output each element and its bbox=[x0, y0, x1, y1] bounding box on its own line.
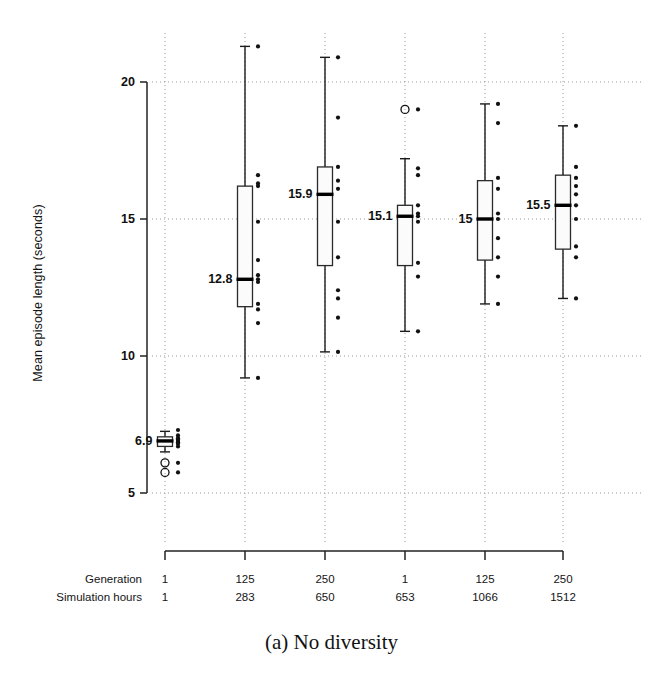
figure-caption: (a) No diversity bbox=[0, 630, 663, 655]
data-point bbox=[416, 214, 420, 218]
data-point bbox=[336, 165, 340, 169]
data-point bbox=[496, 176, 500, 180]
axis-value-simulation-hours-4: 653 bbox=[395, 591, 414, 603]
data-point bbox=[256, 307, 260, 311]
data-point bbox=[256, 44, 260, 48]
data-point bbox=[574, 165, 578, 169]
axis-row-label-generation: Generation bbox=[22, 573, 142, 585]
data-point bbox=[256, 280, 260, 284]
data-point bbox=[256, 184, 260, 188]
axis-value-simulation-hours-1: 1 bbox=[162, 591, 168, 603]
axis-value-generation-4: 1 bbox=[402, 573, 408, 585]
axis-value-simulation-hours-6: 1512 bbox=[550, 591, 576, 603]
data-point bbox=[256, 376, 260, 380]
figure-panel: Mean episode length (seconds) 51015206.9… bbox=[0, 0, 663, 685]
data-point bbox=[176, 444, 180, 448]
data-point bbox=[496, 302, 500, 306]
data-point bbox=[256, 273, 260, 277]
data-point bbox=[336, 187, 340, 191]
data-point bbox=[256, 220, 260, 224]
axis-value-simulation-hours-3: 650 bbox=[315, 591, 334, 603]
data-point bbox=[176, 428, 180, 432]
axis-value-generation-5: 125 bbox=[475, 573, 494, 585]
data-point bbox=[336, 179, 340, 183]
data-point bbox=[416, 261, 420, 265]
y-axis-tick-label-15: 15 bbox=[121, 212, 135, 226]
data-point bbox=[496, 255, 500, 259]
box-plot-group-1 bbox=[157, 428, 181, 477]
box-plot-group-5 bbox=[477, 102, 501, 306]
data-point bbox=[574, 244, 578, 248]
axis-value-generation-2: 125 bbox=[235, 573, 254, 585]
median-value-label-1: 6.9 bbox=[135, 434, 152, 448]
axis-value-simulation-hours-2: 283 bbox=[235, 591, 254, 603]
data-point bbox=[496, 274, 500, 278]
axis-row-label-simulation-hours: Simulation hours bbox=[22, 591, 142, 603]
median-value-label-5: 15 bbox=[459, 212, 473, 226]
box-rect bbox=[238, 186, 253, 307]
data-point bbox=[496, 187, 500, 191]
data-point bbox=[336, 220, 340, 224]
box-rect bbox=[398, 205, 413, 265]
box-rect bbox=[556, 175, 571, 249]
y-axis-tick-label-5: 5 bbox=[128, 486, 135, 500]
axis-value-simulation-hours-5: 1066 bbox=[472, 591, 498, 603]
data-point bbox=[574, 124, 578, 128]
box-plot-group-6 bbox=[555, 124, 579, 301]
data-point bbox=[496, 211, 500, 215]
axis-value-generation-1: 1 bbox=[162, 573, 168, 585]
data-point bbox=[574, 296, 578, 300]
data-point bbox=[256, 173, 260, 177]
data-point bbox=[176, 470, 180, 474]
median-value-label-2: 12.8 bbox=[208, 272, 232, 286]
data-point bbox=[574, 176, 578, 180]
data-point bbox=[496, 102, 500, 106]
data-point bbox=[336, 255, 340, 259]
median-value-label-4: 15.1 bbox=[368, 209, 392, 223]
data-point bbox=[256, 258, 260, 262]
data-point bbox=[336, 316, 340, 320]
axis-value-generation-6: 250 bbox=[553, 573, 572, 585]
data-point bbox=[574, 217, 578, 221]
data-point bbox=[416, 274, 420, 278]
data-point bbox=[574, 255, 578, 259]
box-plot-group-2 bbox=[237, 44, 261, 380]
data-point bbox=[336, 296, 340, 300]
data-point bbox=[574, 184, 578, 188]
data-point bbox=[496, 121, 500, 125]
data-point bbox=[336, 350, 340, 354]
data-point bbox=[574, 192, 578, 196]
y-axis-tick-label-20: 20 bbox=[121, 75, 135, 89]
data-point bbox=[574, 203, 578, 207]
box-rect bbox=[318, 167, 333, 266]
data-point bbox=[176, 461, 180, 465]
data-point bbox=[496, 236, 500, 240]
median-value-label-6: 15.5 bbox=[526, 198, 550, 212]
axis-value-generation-3: 250 bbox=[315, 573, 334, 585]
data-point bbox=[416, 166, 420, 170]
y-axis-label: Mean episode length (seconds) bbox=[31, 163, 45, 423]
box-plot-group-3 bbox=[317, 55, 341, 354]
data-point bbox=[416, 220, 420, 224]
y-axis-tick-label-10: 10 bbox=[121, 349, 135, 363]
data-point bbox=[336, 55, 340, 59]
data-point bbox=[416, 329, 420, 333]
data-point bbox=[416, 173, 420, 177]
data-point bbox=[416, 107, 420, 111]
data-point bbox=[496, 217, 500, 221]
data-point bbox=[256, 302, 260, 306]
data-point bbox=[336, 288, 340, 292]
data-point bbox=[336, 116, 340, 120]
data-point bbox=[416, 203, 420, 207]
data-point bbox=[256, 321, 260, 325]
median-value-label-3: 15.9 bbox=[288, 187, 312, 201]
